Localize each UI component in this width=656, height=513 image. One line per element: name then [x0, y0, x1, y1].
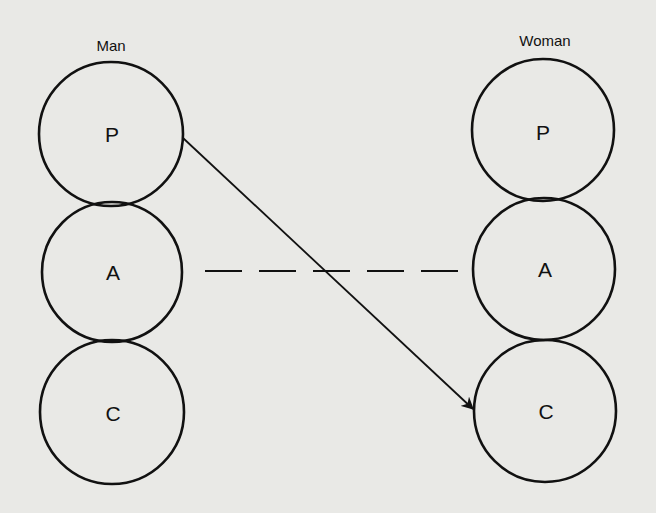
woman-column-label: Woman [519, 32, 570, 49]
man-adult-state: A [42, 202, 182, 342]
woman-adult-state: A [473, 198, 615, 340]
woman-parent-letter: P [536, 121, 550, 144]
woman-child-letter: C [538, 400, 553, 423]
man-child-state: C [40, 340, 184, 484]
man-adult-letter: A [106, 261, 120, 284]
parent-to-child-arrow [183, 138, 473, 409]
man-parent-letter: P [105, 123, 119, 146]
man-column-label: Man [96, 37, 125, 54]
man-child-letter: C [105, 402, 120, 425]
woman-parent-state: P [472, 59, 614, 201]
transaction-diagram: Man Woman P A C P A C [0, 0, 656, 513]
man-parent-state: P [39, 62, 183, 206]
woman-adult-letter: A [538, 258, 552, 281]
woman-child-state: C [474, 340, 616, 482]
